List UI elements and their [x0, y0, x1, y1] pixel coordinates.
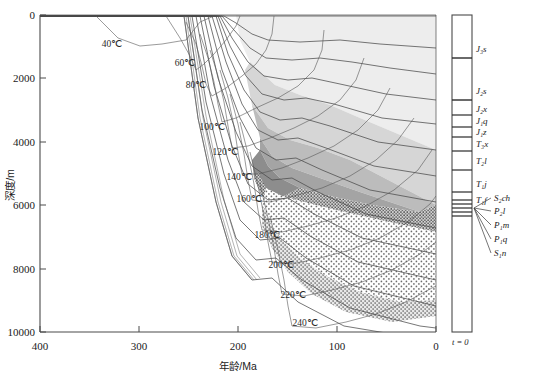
burial-history-chart: 40℃ 60℃ 80℃ 100℃ 120℃ 140℃ 160℃ 180℃ 200… [0, 0, 534, 392]
y-tick-label: 6000 [13, 199, 36, 211]
strat-leader-line [474, 208, 491, 253]
strat-paleozoic-labels: S₂ch P₂l P₁m P₁q S₁n [493, 193, 511, 258]
isotherm-label: 120℃ [212, 147, 237, 157]
x-tick-label: 0 [433, 340, 439, 352]
isotherm-label: 40℃ [102, 39, 123, 49]
strat-unit-label: S₂ch [494, 193, 511, 203]
strat-unit-label: T₂l [476, 156, 487, 166]
strat-unit-label: P₁m [493, 220, 510, 230]
isotherm-label: 240℃ [292, 318, 317, 328]
x-tick-label: 400 [32, 340, 49, 352]
strat-leader-lines [474, 198, 491, 253]
y-tick-label: 0 [30, 9, 36, 21]
y-axis-title: 深度/m [4, 169, 16, 201]
plot-panel: 40℃ 60℃ 80℃ 100℃ 120℃ 140℃ 160℃ 180℃ 200… [4, 9, 439, 372]
isotherm-label: 200℃ [268, 260, 293, 270]
isotherm-label: 140℃ [226, 172, 251, 182]
y-tick-label: 10000 [8, 326, 36, 338]
strat-unit-labels: J₃s J₂s J₂x J₁q J₁z T₃x T₂l T₁j T₁f [476, 44, 488, 205]
strat-column-box [452, 15, 472, 332]
strat-unit-label: T₃x [476, 139, 488, 149]
strat-unit-label: T₁j [476, 179, 487, 189]
strat-unit-label: J₂s [476, 86, 487, 96]
x-tick-labels: 400 300 200 100 0 [32, 340, 440, 352]
isotherm-label: 180℃ [254, 230, 279, 240]
isotherm-label: 100℃ [199, 122, 224, 132]
strat-unit-label: J₃s [476, 44, 487, 54]
strat-leader-line [474, 208, 491, 239]
isotherm-label: 220℃ [280, 290, 305, 300]
y-tick-label: 2000 [13, 72, 36, 84]
y-ticks [40, 15, 46, 332]
strat-unit-label: J₂x [476, 104, 487, 114]
strat-unit-label: P₁q [493, 234, 508, 244]
isotherm-label: 160℃ [236, 194, 261, 204]
strat-unit-label: P₂l [493, 206, 506, 216]
stratigraphic-column: J₃s J₂s J₂x J₁q J₁z T₃x T₂l T₁j T₁f S₂ch… [452, 15, 511, 347]
x-tick-label: 100 [329, 340, 346, 352]
strat-unit-label: S₁n [494, 248, 507, 258]
strat-unit-label: J₁z [476, 127, 487, 137]
strat-unit-label: J₁q [476, 116, 488, 126]
x-tick-label: 200 [230, 340, 247, 352]
t-zero-label: t = 0 [452, 337, 469, 347]
isotherm-label: 80℃ [186, 80, 207, 90]
isotherm-label: 60℃ [175, 58, 196, 68]
x-tick-label: 300 [131, 340, 148, 352]
y-tick-label: 8000 [13, 263, 36, 275]
y-tick-label: 4000 [13, 136, 36, 148]
x-axis-title: 年龄/Ma [219, 360, 257, 372]
figure-root: 40℃ 60℃ 80℃ 100℃ 120℃ 140℃ 160℃ 180℃ 200… [0, 0, 534, 392]
